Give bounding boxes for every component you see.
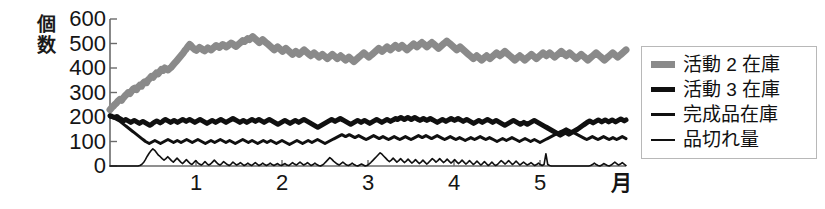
- legend-item-label: 品切れ量: [683, 130, 759, 150]
- legend-item-label: 活動 2 在庫: [683, 55, 780, 75]
- legend-item[interactable]: 活動 2 在庫: [650, 52, 810, 77]
- legend-item[interactable]: 品切れ量: [650, 127, 810, 152]
- legend-item-label: 完成品在庫: [683, 105, 778, 125]
- chart-figure: 個 数 6005004003002001000 12345月 活動 2 在庫 活…: [0, 0, 825, 209]
- chart-legend: 活動 2 在庫 活動 3 在庫 完成品在庫 品切れ量: [641, 46, 817, 159]
- thick-black-line-icon: [650, 87, 676, 92]
- thick-gray-line-icon: [650, 61, 676, 68]
- thin-black-line-icon: [650, 139, 676, 141]
- legend-item-label: 活動 3 在庫: [683, 80, 780, 100]
- series-line: [110, 37, 626, 110]
- series-line: [110, 116, 626, 135]
- axis-lines: [110, 19, 626, 166]
- legend-item[interactable]: 完成品在庫: [650, 102, 810, 127]
- legend-item[interactable]: 活動 3 在庫: [650, 77, 810, 102]
- medium-black-line-icon: [650, 113, 676, 116]
